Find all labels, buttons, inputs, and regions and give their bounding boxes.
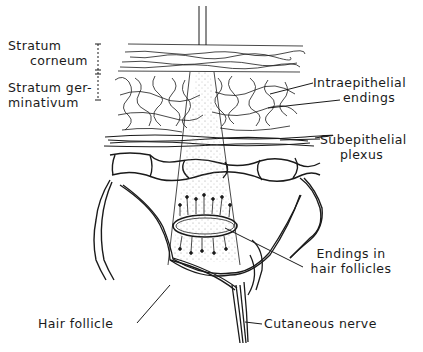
hair-shaft — [199, 6, 206, 45]
label-subepithelial-plexus: Subepithelial plexus — [320, 132, 407, 162]
label-stratum-germinativum: Stratum ger- minativum — [8, 80, 92, 110]
leader-lines — [137, 83, 340, 324]
stratum-corneum-layer — [118, 44, 305, 72]
hair-follicle — [168, 72, 240, 265]
label-intraepithelial-endings: Intraepithelial endings — [313, 75, 406, 105]
label-hair-follicle: Hair follicle — [38, 316, 113, 331]
label-endings-in-hair-follicles: Endings in hair follicles — [296, 246, 406, 276]
label-cutaneous-nerve: Cutaneous nerve — [264, 316, 377, 331]
label-stratum-corneum: Stratum corneum — [8, 38, 88, 68]
